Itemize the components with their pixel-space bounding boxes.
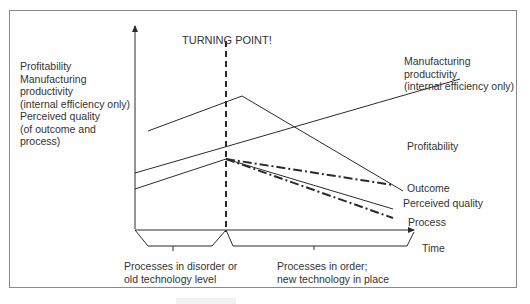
profitability-label: Profitability — [407, 140, 458, 153]
time-axis-label: Time — [422, 242, 445, 255]
time-brace-right — [226, 230, 414, 246]
y-label-line: (internal efficiency only) — [20, 98, 130, 111]
phase-after-line: new technology in place — [277, 273, 389, 286]
perceived-quality-label: Perceived quality — [403, 197, 483, 210]
outcome-line — [226, 159, 393, 185]
phase-after: Processes in order; new technology in pl… — [277, 260, 389, 285]
phase-before-line: old technology level — [124, 273, 237, 286]
outcome-label: Outcome — [407, 182, 450, 195]
y-label-line: Perceived quality — [20, 110, 130, 123]
manufacturing-label-line: (internal efficiency only) — [404, 80, 514, 93]
page-footer-tab — [176, 298, 236, 304]
turning-point-title: TURNING POINT! — [182, 34, 272, 47]
time-brace-left — [135, 230, 226, 246]
phase-before-line: Processes in disorder or — [124, 260, 237, 273]
phase-before: Processes in disorder or old technology … — [124, 260, 237, 285]
manufacturing-label-line: productivity — [404, 68, 514, 81]
process-label: Process — [408, 216, 446, 229]
y-label-line: productivity — [20, 85, 130, 98]
manufacturing-productivity-line — [135, 79, 460, 173]
perceived-quality-line — [135, 159, 393, 209]
y-axis-label: Profitability Manufacturing productivity… — [20, 60, 130, 148]
process-line — [226, 159, 393, 218]
y-label-line: Profitability — [20, 60, 130, 73]
manufacturing-label-line: Manufacturing — [404, 55, 514, 68]
y-label-line: process) — [20, 135, 130, 148]
phase-after-line: Processes in order; — [277, 260, 389, 273]
y-label-line: (of outcome and — [20, 123, 130, 136]
manufacturing-label: Manufacturing productivity (internal eff… — [404, 55, 514, 93]
y-label-line: Manufacturing — [20, 73, 130, 86]
